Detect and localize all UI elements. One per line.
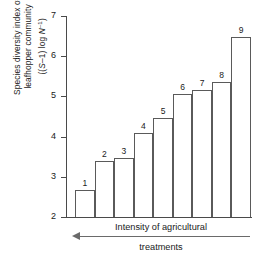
bar-8 [212, 82, 232, 217]
y-tick-2 [61, 217, 66, 218]
bar-3 [114, 158, 134, 217]
y-axis-title-line2-text: leafhopper community [23, 4, 33, 88]
bar-label-5: 5 [153, 107, 173, 116]
bar-label-6: 6 [173, 83, 193, 92]
intensity-arrow-line [80, 236, 250, 237]
y-axis-title-line2: leafhopper community [23, 0, 34, 138]
y-tick-label-3: 3 [42, 172, 56, 181]
y-axis-units-exponent: –1 [36, 21, 43, 28]
bar-7 [192, 90, 212, 217]
bar-label-9: 9 [231, 26, 251, 35]
bars-group: 123456789 [75, 16, 251, 217]
bar-4 [134, 133, 154, 217]
arrow-left-icon [72, 232, 80, 240]
y-axis-units-S: S [37, 63, 47, 69]
y-tick-label-6: 6 [42, 51, 56, 60]
bar-6 [173, 94, 193, 217]
y-tick-label-2: 2 [42, 212, 56, 221]
y-tick-4 [61, 137, 66, 138]
x-axis-caption-line2: treatments [66, 242, 256, 253]
y-axis-units-open: (( [37, 69, 47, 75]
y-tick-5 [61, 96, 66, 97]
y-axis-units-N: N [37, 28, 47, 34]
bar-label-1: 1 [75, 179, 95, 188]
y-tick-label-7: 7 [42, 11, 56, 20]
y-axis-title-line3: ((S–1) log N–1) [34, 0, 49, 138]
bar-label-4: 4 [134, 122, 154, 131]
y-tick-6 [61, 56, 66, 57]
bar-5 [153, 118, 173, 217]
y-tick-7 [61, 16, 66, 17]
bar-1 [75, 190, 95, 217]
x-axis-line [66, 217, 252, 218]
bar-label-3: 3 [114, 147, 134, 156]
bar-label-7: 7 [192, 79, 212, 88]
y-tick-3 [61, 177, 66, 178]
x-axis-caption-line1: Intensity of agricultural [66, 222, 256, 233]
y-tick-label-5: 5 [42, 91, 56, 100]
y-axis-title: Species diversity index of leafhopper co… [12, 0, 49, 138]
bar-label-2: 2 [95, 150, 115, 159]
y-axis-line [66, 16, 67, 218]
bar-label-8: 8 [212, 71, 232, 80]
y-tick-label-4: 4 [42, 132, 56, 141]
y-axis-title-line1: Species diversity index of [12, 0, 23, 138]
figure-container: Species diversity index of leafhopper co… [0, 0, 268, 257]
bar-2 [95, 161, 115, 217]
bar-9 [231, 37, 251, 217]
